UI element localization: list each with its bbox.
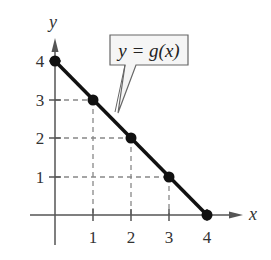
x-tick-label-4: 4 (203, 228, 212, 247)
x-tick-label-2: 2 (127, 228, 136, 247)
y-axis-label: y (47, 12, 57, 32)
point-0-4 (50, 56, 61, 67)
function-label: y = g(x) (116, 40, 179, 62)
point-3-1 (164, 172, 175, 183)
y-tick-label-1: 1 (36, 168, 45, 187)
function-callout: y = g(x) (110, 35, 188, 113)
y-tick-label-4: 4 (36, 52, 45, 71)
y-axis-arrow-icon (52, 38, 59, 52)
x-tick-label-1: 1 (89, 228, 98, 247)
point-4-0 (202, 210, 213, 221)
y-tick-label-3: 3 (36, 91, 45, 110)
point-2-2 (126, 133, 137, 144)
x-tick-label-3: 3 (165, 228, 174, 247)
point-1-3 (88, 95, 99, 106)
y-tick-label-2: 2 (36, 129, 45, 148)
chart-canvas: 1 2 3 4 1 2 3 4 x y y = g(x) (0, 0, 271, 260)
x-axis-arrow-icon (229, 212, 243, 219)
x-axis-label: x (248, 204, 257, 224)
